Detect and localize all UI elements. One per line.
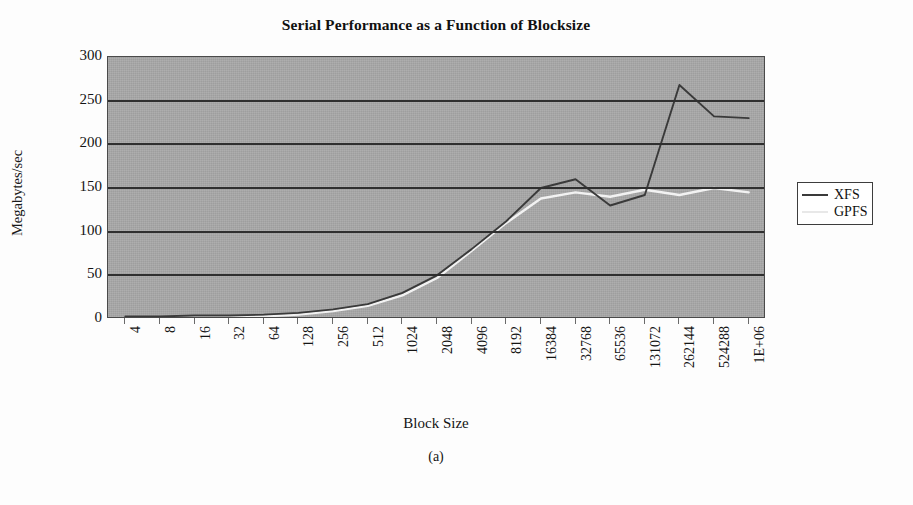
x-tick-mark bbox=[540, 318, 541, 324]
x-tick-label: 262144 bbox=[683, 326, 697, 368]
x-axis-tick-labels: 4816326412825651210242048409681921638432… bbox=[107, 326, 765, 396]
x-tick-mark bbox=[194, 318, 195, 324]
x-tick-mark bbox=[609, 318, 610, 324]
gridline bbox=[108, 100, 764, 102]
series-line-gpfs bbox=[125, 188, 748, 318]
x-tick-mark bbox=[748, 318, 749, 324]
y-tick-label: 300 bbox=[58, 48, 102, 63]
x-tick-label: 2048 bbox=[441, 326, 455, 354]
series-line-xfs bbox=[125, 85, 748, 316]
x-tick-label: 256 bbox=[337, 326, 351, 347]
x-tick-label: 1E+06 bbox=[753, 326, 767, 363]
x-tick-label: 4 bbox=[129, 326, 143, 333]
x-tick-mark bbox=[159, 318, 160, 324]
plot-area bbox=[107, 56, 765, 318]
x-tick-mark bbox=[713, 318, 714, 324]
x-tick-label: 524288 bbox=[718, 326, 732, 368]
legend-swatch-icon bbox=[802, 211, 828, 213]
gridline bbox=[108, 274, 764, 276]
x-tick-mark bbox=[505, 318, 506, 324]
legend-item-xfs: XFS bbox=[802, 186, 867, 203]
x-tick-mark bbox=[124, 318, 125, 324]
x-tick-mark bbox=[228, 318, 229, 324]
x-tick-mark bbox=[436, 318, 437, 324]
page-title: Serial Performance as a Function of Bloc… bbox=[107, 16, 765, 34]
x-tick-label: 32768 bbox=[580, 326, 594, 361]
x-tick-mark bbox=[263, 318, 264, 324]
gridline bbox=[108, 143, 764, 145]
x-tick-label: 128 bbox=[302, 326, 316, 347]
x-tick-label: 64 bbox=[268, 326, 282, 340]
y-axis-tick-labels: 050100150200250300 bbox=[52, 0, 102, 505]
gridline bbox=[108, 187, 764, 189]
x-tick-label: 131072 bbox=[649, 326, 663, 368]
x-tick-label: 8192 bbox=[510, 326, 524, 354]
x-tick-label: 1024 bbox=[406, 326, 420, 354]
y-tick-label: 50 bbox=[58, 266, 102, 281]
x-axis-label: Block Size bbox=[107, 415, 765, 432]
gridline bbox=[108, 231, 764, 233]
x-tick-label: 16 bbox=[199, 326, 213, 340]
legend-swatch-icon bbox=[802, 194, 828, 196]
figure-panel: Serial Performance as a Function of Bloc… bbox=[0, 0, 913, 505]
y-axis-label: Megabytes/sec bbox=[9, 108, 26, 278]
y-tick-label: 200 bbox=[58, 135, 102, 150]
x-tick-mark bbox=[575, 318, 576, 324]
chart-legend: XFSGPFS bbox=[797, 182, 873, 225]
x-tick-label: 16384 bbox=[545, 326, 559, 361]
x-tick-mark bbox=[332, 318, 333, 324]
legend-label: GPFS bbox=[834, 205, 867, 219]
x-tick-label: 4096 bbox=[476, 326, 490, 354]
x-tick-label: 8 bbox=[164, 326, 178, 333]
legend-label: XFS bbox=[834, 188, 860, 202]
x-axis-tick-marks bbox=[107, 318, 765, 326]
x-tick-label: 512 bbox=[372, 326, 386, 347]
x-tick-mark bbox=[644, 318, 645, 324]
x-tick-label: 65536 bbox=[614, 326, 628, 361]
x-tick-label: 32 bbox=[233, 326, 247, 340]
legend-item-gpfs: GPFS bbox=[802, 203, 867, 220]
y-tick-label: 0 bbox=[58, 310, 102, 325]
x-tick-mark bbox=[297, 318, 298, 324]
y-tick-label: 250 bbox=[58, 92, 102, 107]
y-tick-label: 100 bbox=[58, 223, 102, 238]
x-tick-mark bbox=[401, 318, 402, 324]
x-tick-mark bbox=[471, 318, 472, 324]
figure-caption: (a) bbox=[107, 449, 765, 465]
x-tick-mark bbox=[367, 318, 368, 324]
y-tick-label: 150 bbox=[58, 179, 102, 194]
x-tick-mark bbox=[678, 318, 679, 324]
